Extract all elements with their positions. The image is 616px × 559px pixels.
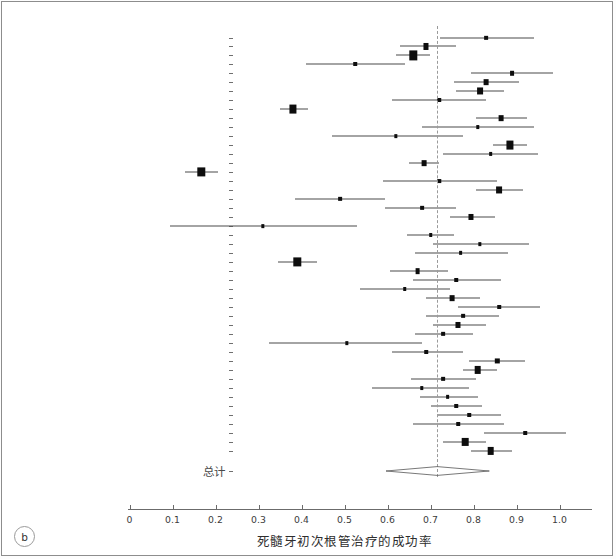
- study-row-tick: [229, 109, 233, 110]
- study-row-tick: [229, 316, 233, 317]
- study-row-tick: [229, 334, 233, 335]
- study-point-estimate: [429, 233, 433, 237]
- x-axis-tick: [517, 505, 518, 509]
- study-row-tick: [229, 298, 233, 299]
- study-point-estimate: [198, 168, 205, 177]
- study-row-tick: [229, 397, 233, 398]
- study-row-tick: [229, 289, 233, 290]
- study-point-estimate: [476, 125, 479, 129]
- study-point-estimate: [338, 197, 342, 201]
- study-row-tick: [229, 235, 233, 236]
- study-row-tick: [229, 280, 233, 281]
- study-point-estimate: [420, 386, 423, 390]
- study-row-tick: [229, 145, 233, 146]
- x-axis-line: [128, 509, 592, 510]
- study-point-estimate: [442, 377, 446, 381]
- study-row-tick: [229, 217, 233, 218]
- study-point-estimate: [477, 88, 483, 95]
- x-axis-tick: [474, 505, 475, 509]
- study-row-tick: [229, 307, 233, 308]
- x-axis-tick-label: 0.3: [251, 514, 266, 525]
- study-row-tick: [229, 406, 233, 407]
- study-row-tick: [229, 325, 233, 326]
- study-point-estimate: [485, 35, 489, 39]
- study-row-tick: [229, 199, 233, 200]
- study-point-estimate: [415, 268, 420, 274]
- study-row-tick: [229, 190, 233, 191]
- study-row-tick: [229, 271, 233, 272]
- study-point-estimate: [484, 80, 489, 86]
- study-row-tick: [229, 442, 233, 443]
- study-row-tick: [229, 100, 233, 101]
- study-point-estimate: [456, 322, 461, 328]
- study-point-estimate: [478, 242, 481, 246]
- x-axis-tick-label: 0.4: [294, 514, 309, 525]
- study-point-estimate: [442, 332, 446, 336]
- study-point-estimate: [506, 141, 513, 150]
- study-row-tick: [229, 82, 233, 83]
- study-point-estimate: [424, 43, 429, 49]
- study-label-column: Auerbach (1938)Buchbinder (1941)Castagno…: [0, 0, 229, 510]
- x-axis-tick: [388, 505, 389, 509]
- study-row-tick: [229, 361, 233, 362]
- study-point-estimate: [455, 404, 459, 408]
- study-point-estimate: [467, 413, 471, 417]
- study-point-estimate: [495, 358, 499, 363]
- study-row-tick: [229, 38, 233, 39]
- x-axis-tick-label: 0.2: [208, 514, 223, 525]
- study-row-tick: [229, 370, 233, 371]
- study-point-estimate: [461, 314, 465, 318]
- study-point-estimate: [353, 62, 357, 66]
- study-row-tick: [229, 46, 233, 47]
- study-row-tick: [229, 352, 233, 353]
- study-point-estimate: [457, 422, 461, 426]
- study-point-estimate: [489, 152, 493, 156]
- study-row-tick: [229, 388, 233, 389]
- x-axis-tick-label: 0.9: [509, 514, 524, 525]
- study-row-tick: [229, 91, 233, 92]
- x-axis-tick-label: 1.0: [552, 514, 567, 525]
- study-point-estimate: [422, 160, 427, 166]
- x-axis-tick: [345, 505, 346, 509]
- study-row-tick: [229, 253, 233, 254]
- study-point-estimate: [474, 366, 481, 374]
- study-point-estimate: [420, 206, 424, 210]
- study-row-tick: [229, 379, 233, 380]
- forest-plot-canvas: Auerbach (1938)Buchbinder (1941)Castagno…: [0, 0, 616, 559]
- summary-row-tick: [229, 471, 233, 472]
- study-row-tick: [229, 343, 233, 344]
- x-axis-tick: [431, 505, 432, 509]
- study-point-estimate: [459, 251, 463, 255]
- study-point-estimate: [394, 134, 397, 138]
- study-point-estimate: [496, 187, 502, 194]
- x-axis-tick: [216, 505, 217, 509]
- study-point-estimate: [510, 71, 514, 75]
- x-axis-tick-label: 0.1: [165, 514, 180, 525]
- study-row-tick: [229, 127, 233, 128]
- summary-diamond: [386, 465, 489, 477]
- x-axis-tick-label: 0.8: [466, 514, 481, 525]
- reference-line: [437, 26, 438, 477]
- forest-plot-figure: b Auerbach (1938)Buchbinder (1941)Castag…: [0, 0, 616, 559]
- x-axis-tick-label: 0.6: [380, 514, 395, 525]
- study-row-tick: [229, 208, 233, 209]
- study-row-tick: [229, 154, 233, 155]
- x-axis-tick: [560, 505, 561, 509]
- study-row-tick: [229, 244, 233, 245]
- study-point-estimate: [424, 350, 428, 354]
- x-axis-tick: [173, 505, 174, 509]
- x-axis-tick: [259, 505, 260, 509]
- study-row-tick: [229, 73, 233, 74]
- study-point-estimate: [289, 105, 296, 114]
- summary-row-label: 总计: [0, 463, 225, 479]
- study-point-estimate: [345, 341, 348, 345]
- study-row-tick: [229, 433, 233, 434]
- study-row-tick: [229, 136, 233, 137]
- study-row-tick: [229, 55, 233, 56]
- study-row-tick: [229, 64, 233, 65]
- study-point-estimate: [403, 287, 407, 291]
- study-row-tick: [229, 163, 233, 164]
- study-point-estimate: [469, 214, 474, 220]
- study-point-estimate: [487, 447, 494, 455]
- study-row-tick: [229, 172, 233, 173]
